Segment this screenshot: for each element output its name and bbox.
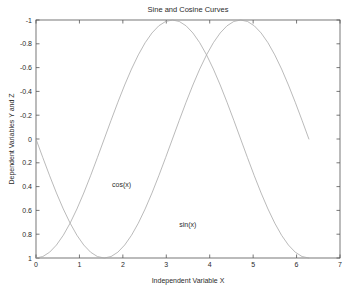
series-annotation-sinx: sin(x) — [179, 221, 196, 229]
y-tick-label: 0.2 — [22, 159, 32, 166]
x-tick-label: 4 — [208, 261, 212, 268]
chart-title: Sine and Cosine Curves — [148, 5, 229, 14]
x-tick-label: 7 — [338, 261, 342, 268]
chart-figure: Sine and Cosine Curves Independent Varia… — [0, 0, 355, 290]
y-tick-label: -0.2 — [20, 112, 32, 119]
x-tick-label: 2 — [121, 261, 125, 268]
plot-canvas: Sine and Cosine Curves Independent Varia… — [0, 0, 355, 290]
x-tick-label: 1 — [77, 261, 81, 268]
y-tick-label: -0.8 — [20, 40, 32, 47]
y-tick-label: -1 — [26, 17, 32, 24]
x-tick-label: 6 — [295, 261, 299, 268]
y-tick-label: 1 — [28, 255, 32, 262]
y-tick-label: 0 — [28, 136, 32, 143]
y-tick-label: -0.6 — [20, 64, 32, 71]
figure-background — [0, 0, 355, 290]
series-annotation-cosx: cos(x) — [112, 181, 131, 189]
y-tick-label: 0.4 — [22, 183, 32, 190]
x-tick-label: 5 — [251, 261, 255, 268]
x-tick-label: 3 — [164, 261, 168, 268]
y-axis-label: Dependent Variables Y and Z — [8, 93, 16, 185]
y-tick-label: 0.8 — [22, 231, 32, 238]
y-tick-label: 0.6 — [22, 207, 32, 214]
x-axis-label: Independent Variable X — [152, 277, 225, 285]
y-tick-label: -0.4 — [20, 88, 32, 95]
x-tick-label: 0 — [34, 261, 38, 268]
